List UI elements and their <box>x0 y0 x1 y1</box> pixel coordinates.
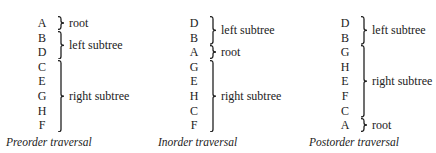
node-letter: C <box>35 61 49 73</box>
group-label: left subtree <box>221 24 275 36</box>
node-letter: F <box>338 90 352 102</box>
brace-icon <box>208 45 218 59</box>
node-letter: B <box>187 32 201 44</box>
node-letter: B <box>338 32 352 44</box>
brace-icon <box>359 45 369 117</box>
node-letter: E <box>35 75 49 87</box>
group-label: left subtree <box>372 24 426 36</box>
node-letter: C <box>187 105 201 117</box>
brace-icon <box>56 60 66 132</box>
node-letter: F <box>35 119 49 131</box>
caption: Inorder traversal <box>158 136 237 148</box>
group-label: left subtree <box>69 39 123 51</box>
group-label: right subtree <box>69 90 129 102</box>
node-letter: H <box>35 105 49 117</box>
group-label: root <box>69 17 88 29</box>
node-letter: H <box>187 90 201 102</box>
node-letter: D <box>338 17 352 29</box>
preorder-column: ABDCEGHFrootleft subtreeright subtreePre… <box>0 0 150 153</box>
node-letter: H <box>338 61 352 73</box>
group-label: right subtree <box>372 75 432 87</box>
node-letter: D <box>187 17 201 29</box>
caption: Postorder traversal <box>309 136 399 148</box>
brace-icon <box>56 31 66 60</box>
brace-icon <box>359 118 369 132</box>
node-letter: A <box>35 17 49 29</box>
node-letter: C <box>338 105 352 117</box>
brace-icon <box>359 16 369 45</box>
brace-icon <box>208 60 218 132</box>
node-letter: E <box>187 75 201 87</box>
group-label: root <box>221 46 240 58</box>
group-label: right subtree <box>221 90 281 102</box>
node-letter: G <box>35 90 49 102</box>
node-letter: G <box>338 46 352 58</box>
node-letter: A <box>338 119 352 131</box>
group-label: root <box>372 119 391 131</box>
node-letter: F <box>187 119 201 131</box>
inorder-column: DBAGEHCFleft subtreerootright subtreeIno… <box>152 0 302 153</box>
node-letter: G <box>187 61 201 73</box>
brace-icon <box>208 16 218 45</box>
node-letter: B <box>35 32 49 44</box>
brace-icon <box>56 16 66 30</box>
node-letter: E <box>338 75 352 87</box>
node-letter: D <box>35 46 49 58</box>
caption: Preorder traversal <box>6 136 92 148</box>
node-letter: A <box>187 46 201 58</box>
postorder-column: DBGHEFCAleft subtreeright subtreerootPos… <box>303 0 436 153</box>
